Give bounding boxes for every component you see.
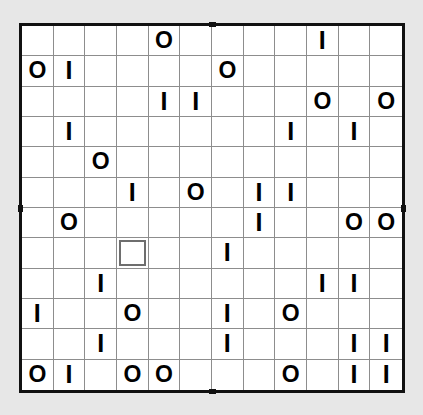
grid-cell[interactable] <box>117 117 149 147</box>
grid-cell[interactable] <box>54 299 86 329</box>
grid-cell[interactable]: I <box>339 117 371 147</box>
grid-cell[interactable]: O <box>275 360 307 390</box>
grid-cell[interactable] <box>149 208 181 238</box>
grid-cell[interactable] <box>307 329 339 359</box>
grid-cell[interactable] <box>22 147 54 177</box>
grid-cell[interactable]: O <box>85 147 117 177</box>
grid-cell[interactable]: O <box>149 360 181 390</box>
grid-cell[interactable]: O <box>22 360 54 390</box>
grid-cell[interactable] <box>244 360 276 390</box>
puzzle-board[interactable]: OIOIOIIOOIIIOIOIIOIOOIIIIIOIOIIIIOIOOOII <box>19 23 405 393</box>
grid-cell[interactable]: O <box>339 208 371 238</box>
grid-cell[interactable] <box>149 117 181 147</box>
grid-cell[interactable] <box>212 208 244 238</box>
grid-cell[interactable] <box>307 208 339 238</box>
grid-cell[interactable]: O <box>370 87 402 117</box>
grid-cell[interactable] <box>244 117 276 147</box>
grid-cell[interactable] <box>370 26 402 56</box>
grid-cell[interactable] <box>54 178 86 208</box>
grid-cell[interactable]: I <box>85 269 117 299</box>
grid-cell[interactable]: O <box>149 26 181 56</box>
grid-cell[interactable]: O <box>117 360 149 390</box>
grid-cell[interactable] <box>244 238 276 268</box>
grid-cell[interactable] <box>117 147 149 177</box>
grid-cell[interactable]: I <box>117 178 149 208</box>
grid-cell[interactable] <box>307 238 339 268</box>
grid-cell[interactable] <box>22 329 54 359</box>
grid-cell[interactable]: I <box>370 360 402 390</box>
grid-cell[interactable]: O <box>212 56 244 86</box>
grid-cell[interactable] <box>339 147 371 177</box>
grid-cell[interactable]: I <box>275 117 307 147</box>
grid-cell[interactable] <box>244 329 276 359</box>
grid-cell[interactable] <box>22 208 54 238</box>
grid-cell[interactable]: I <box>339 269 371 299</box>
grid-cell[interactable]: O <box>117 299 149 329</box>
grid-cell[interactable] <box>275 26 307 56</box>
grid-cell[interactable] <box>212 147 244 177</box>
grid-cell[interactable] <box>22 238 54 268</box>
grid-cell[interactable] <box>212 87 244 117</box>
grid-cell[interactable] <box>244 299 276 329</box>
grid-cell[interactable]: I <box>22 299 54 329</box>
grid-cell[interactable]: I <box>244 208 276 238</box>
grid-cell[interactable] <box>149 56 181 86</box>
grid-cell[interactable] <box>275 238 307 268</box>
grid-cell[interactable] <box>22 178 54 208</box>
grid-cell[interactable] <box>307 56 339 86</box>
grid-cell[interactable] <box>85 360 117 390</box>
grid-cell[interactable] <box>22 26 54 56</box>
grid-cell[interactable] <box>370 238 402 268</box>
grid-cell[interactable] <box>117 56 149 86</box>
grid-cell[interactable]: O <box>180 178 212 208</box>
grid-cell[interactable] <box>149 269 181 299</box>
grid-cell[interactable] <box>244 87 276 117</box>
grid-cell[interactable] <box>117 329 149 359</box>
grid-cell[interactable] <box>85 238 117 268</box>
grid-cell[interactable] <box>117 87 149 117</box>
grid-cell[interactable]: I <box>275 178 307 208</box>
grid-cell[interactable] <box>54 269 86 299</box>
grid-cell[interactable] <box>339 299 371 329</box>
grid-cell[interactable] <box>149 329 181 359</box>
grid-cell[interactable] <box>180 360 212 390</box>
grid-cell[interactable]: I <box>54 117 86 147</box>
grid-cell[interactable]: O <box>275 299 307 329</box>
grid-cell[interactable] <box>307 178 339 208</box>
grid-cell[interactable] <box>275 329 307 359</box>
grid-cell[interactable] <box>339 238 371 268</box>
grid-cell[interactable] <box>275 87 307 117</box>
grid-cell[interactable] <box>370 56 402 86</box>
grid-cell[interactable] <box>85 26 117 56</box>
grid-cell[interactable] <box>117 208 149 238</box>
grid-cell[interactable] <box>149 147 181 177</box>
grid-cell[interactable] <box>370 117 402 147</box>
grid-cell[interactable]: I <box>54 56 86 86</box>
grid-cell[interactable]: O <box>54 208 86 238</box>
grid-cell[interactable] <box>22 87 54 117</box>
grid-cell[interactable] <box>244 26 276 56</box>
grid-cell[interactable] <box>180 238 212 268</box>
grid-cell[interactable] <box>22 117 54 147</box>
grid-cell[interactable] <box>244 269 276 299</box>
grid-cell[interactable] <box>244 147 276 177</box>
grid-cell[interactable] <box>180 147 212 177</box>
grid-cell[interactable] <box>180 329 212 359</box>
grid-cell[interactable] <box>85 56 117 86</box>
grid-cell[interactable]: I <box>54 360 86 390</box>
grid-cell[interactable] <box>180 117 212 147</box>
grid-cell[interactable] <box>307 360 339 390</box>
grid-cell[interactable] <box>244 56 276 86</box>
grid-cell[interactable] <box>85 299 117 329</box>
grid-cell[interactable] <box>370 269 402 299</box>
grid-cell[interactable] <box>370 147 402 177</box>
grid-cell[interactable] <box>212 360 244 390</box>
grid-cell[interactable]: I <box>212 329 244 359</box>
grid-cell[interactable] <box>180 269 212 299</box>
grid-cell[interactable]: I <box>85 329 117 359</box>
grid-cell[interactable] <box>180 26 212 56</box>
grid-cell[interactable] <box>339 56 371 86</box>
grid-cell[interactable] <box>54 329 86 359</box>
grid-cell[interactable]: I <box>307 26 339 56</box>
grid-cell[interactable] <box>117 26 149 56</box>
